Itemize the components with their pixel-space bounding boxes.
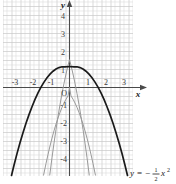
equation-fraction-numerator: 1 xyxy=(155,167,158,173)
parabola-graph-figure: -3 -2 -1 1 2 3 4 3 2 1 -1 -2 -3 -4 O x y… xyxy=(0,0,176,184)
y-tick-label-neg1: -1 xyxy=(60,101,67,110)
y-tick-label-4: 4 xyxy=(61,12,65,21)
y-tick-label-neg2: -2 xyxy=(60,119,67,128)
y-axis-label: y xyxy=(60,0,66,10)
equation-exponent: 2 xyxy=(167,167,170,173)
y-tick-label-neg4: -4 xyxy=(60,155,67,164)
x-axis-arrowhead xyxy=(140,85,147,90)
x-axis-tick-labels: -3 -2 -1 1 2 3 xyxy=(12,78,126,87)
equation-fraction-denominator: 2 xyxy=(155,176,158,182)
equation-y-symbol: y xyxy=(129,168,134,178)
x-tick-label-neg1: -1 xyxy=(48,78,55,87)
y-tick-label-1: 1 xyxy=(61,66,65,75)
equation-minus-sign: − xyxy=(145,168,150,178)
curve-equation-label: y = − 1 2 x 2 xyxy=(129,167,170,182)
equation-equals-sign: = xyxy=(137,168,142,178)
x-tick-label-neg2: -2 xyxy=(30,78,37,87)
y-tick-label-neg3: -3 xyxy=(60,137,67,146)
y-tick-label-2: 2 xyxy=(61,48,65,57)
x-tick-label-2: 2 xyxy=(104,78,108,87)
x-tick-label-1: 1 xyxy=(86,78,90,87)
origin-label: O xyxy=(61,89,67,98)
equation-x-symbol: x xyxy=(160,168,165,178)
y-axis-arrowhead xyxy=(67,0,72,7)
x-tick-label-3: 3 xyxy=(122,78,126,87)
x-tick-label-neg3: -3 xyxy=(12,78,19,87)
y-tick-label-3: 3 xyxy=(61,30,65,39)
x-axis-label: x xyxy=(135,89,141,99)
coordinate-plane-svg: -3 -2 -1 1 2 3 4 3 2 1 -1 -2 -3 -4 O x y… xyxy=(0,0,176,184)
